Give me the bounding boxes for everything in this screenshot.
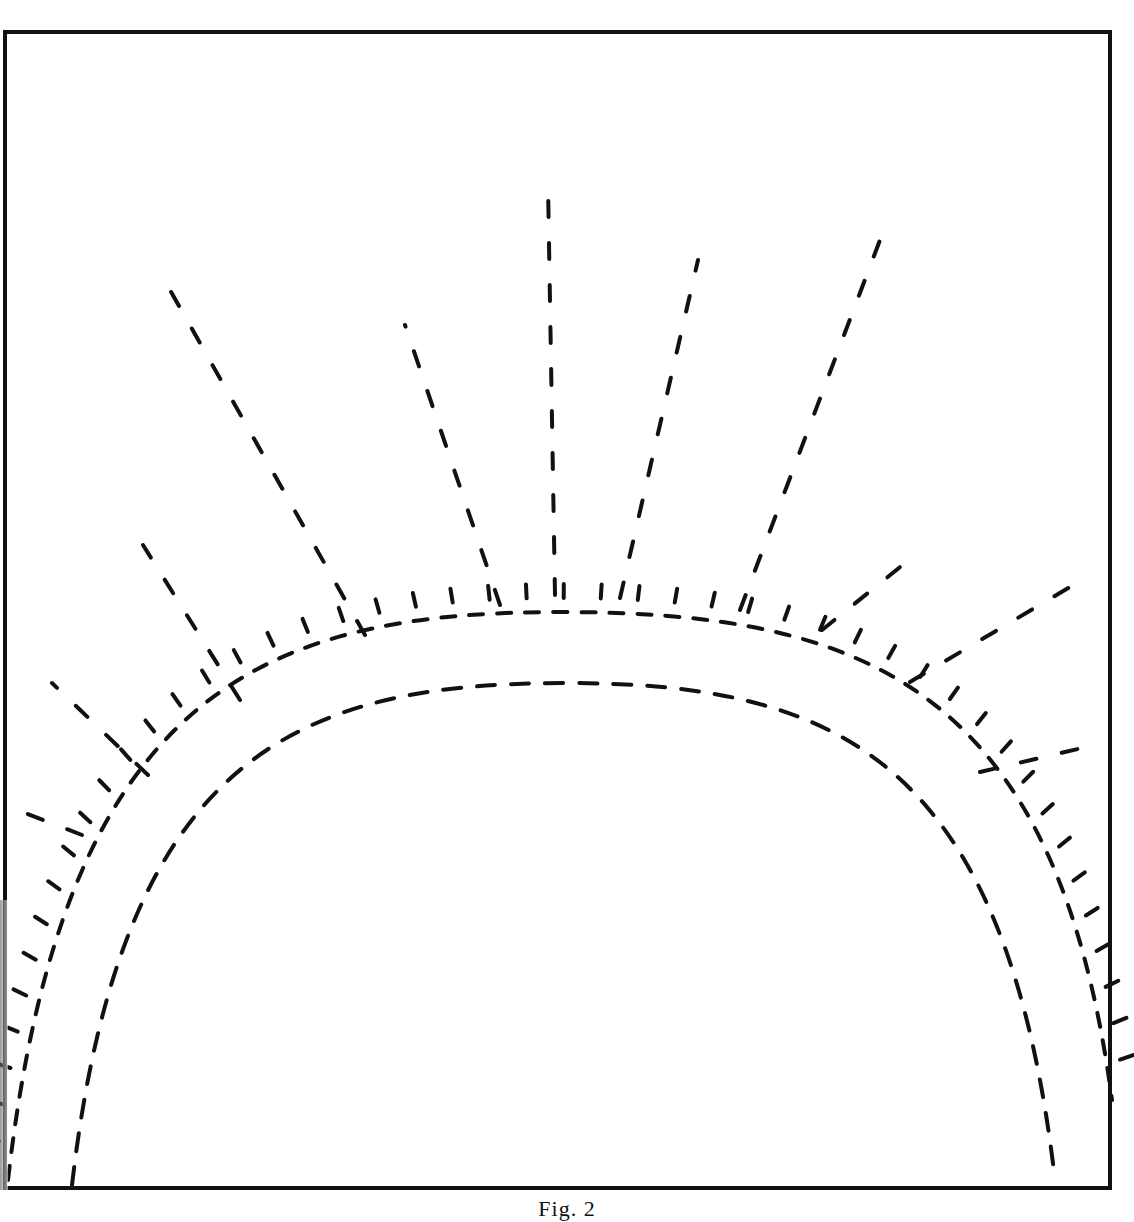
radial-tick <box>1002 741 1011 751</box>
radial-tick <box>234 650 241 662</box>
radial-tick <box>748 599 752 612</box>
radial-tick <box>675 589 677 603</box>
radial-tick <box>601 585 602 599</box>
radial-tick <box>202 671 209 683</box>
radial-tick <box>339 608 344 621</box>
radial-tick <box>172 694 180 705</box>
dashed-ray <box>25 813 82 835</box>
radial-tick <box>1073 872 1084 880</box>
radial-tick <box>950 688 958 699</box>
radial-tick <box>1059 838 1070 847</box>
radial-tick <box>855 630 861 643</box>
radial-tick <box>1120 1055 1133 1060</box>
dashed-ray <box>620 260 698 598</box>
radial-tick <box>488 586 490 600</box>
figure-caption: Fig. 2 <box>0 1196 1134 1222</box>
dashed-ray <box>170 290 365 635</box>
radial-tick <box>35 917 47 925</box>
figure-frame <box>5 32 1110 1188</box>
dashed-ray <box>548 185 555 595</box>
radial-tick <box>413 593 416 607</box>
radial-tick <box>784 607 789 620</box>
radial-tick <box>712 593 715 607</box>
radial-tick <box>1097 944 1109 951</box>
radial-tick <box>48 881 59 889</box>
radial-tick <box>1023 772 1033 782</box>
dashed-rays <box>25 185 1085 835</box>
dashed-ray <box>143 545 240 700</box>
dashed-ray <box>980 748 1082 772</box>
dashed-ray <box>405 325 500 605</box>
dashed-ray <box>822 555 915 630</box>
radial-tick <box>1086 908 1098 916</box>
radial-tick <box>1113 1018 1126 1023</box>
radial-tick <box>638 586 640 600</box>
radial-tick <box>267 633 273 646</box>
radial-tick <box>63 847 74 856</box>
radial-tick <box>450 589 452 603</box>
radial-ticks <box>0 584 1133 1141</box>
radial-tick <box>977 713 986 724</box>
scan-edge-shadow <box>0 900 8 1190</box>
radial-tick <box>99 780 109 790</box>
radial-tick <box>376 599 380 612</box>
radial-tick <box>303 619 308 632</box>
dashed-ray <box>910 578 1085 682</box>
dashed-ray <box>52 683 148 775</box>
radial-tick <box>1042 804 1052 813</box>
dashed-ray <box>740 240 880 610</box>
radial-tick <box>14 989 27 995</box>
inner-dashed-arc <box>72 683 1055 1185</box>
radial-tick <box>24 953 36 960</box>
radial-tick <box>888 646 895 658</box>
radial-tick <box>526 584 527 598</box>
radial-tick <box>145 720 154 731</box>
radial-tick <box>80 813 90 822</box>
radial-tick <box>1106 981 1119 987</box>
radial-tick <box>121 749 130 760</box>
